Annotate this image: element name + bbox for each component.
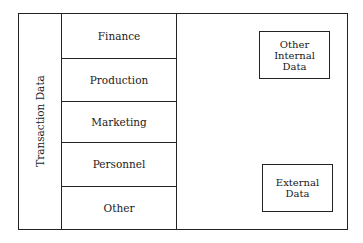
other-internal-data-box: Other Internal Data: [259, 31, 330, 79]
external-data-box: External Data: [262, 164, 333, 212]
department-marketing: Marketing: [61, 101, 177, 143]
department-other: Other: [61, 186, 177, 230]
department-production: Production: [61, 58, 177, 102]
department-label: Personnel: [93, 158, 146, 170]
department-label: Marketing: [91, 116, 147, 128]
transaction-data-label: Transaction Data: [34, 75, 46, 167]
department-label: Other: [104, 202, 135, 214]
department-label: Production: [90, 74, 148, 86]
department-personnel: Personnel: [61, 142, 177, 187]
department-label: Finance: [98, 30, 141, 42]
department-finance: Finance: [61, 13, 177, 59]
